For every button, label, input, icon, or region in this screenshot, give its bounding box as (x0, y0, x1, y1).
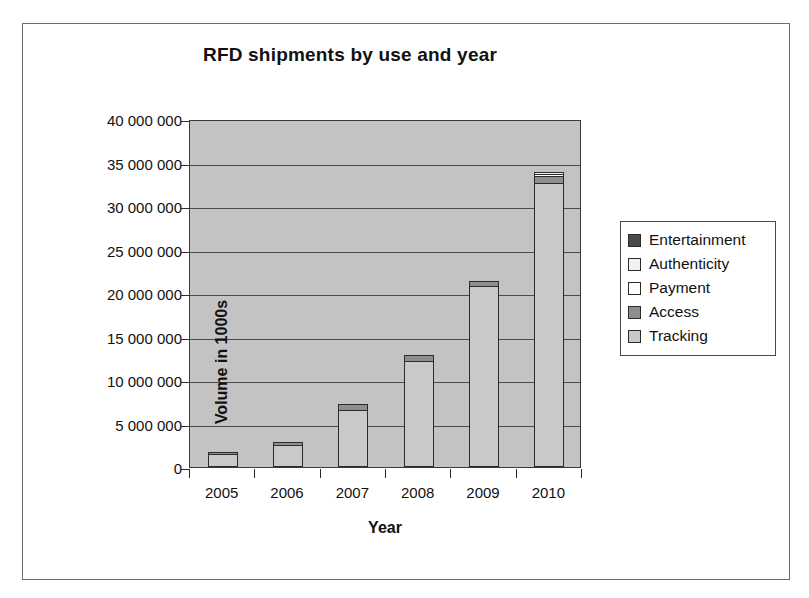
plot-area: Volume in 1000s (189, 120, 581, 468)
legend-swatch-icon (628, 234, 641, 247)
legend-label: Entertainment (649, 232, 746, 248)
legend-item-access[interactable]: Access (628, 300, 768, 324)
x-axis-tick (450, 469, 451, 478)
gridline (190, 295, 580, 296)
x-axis-tick-label-2006: 2006 (270, 484, 303, 501)
bar-segment-tracking[interactable] (273, 445, 303, 467)
y-axis-tick (181, 165, 189, 166)
plot-inner (190, 121, 580, 467)
bar-segment-access[interactable] (534, 176, 564, 184)
legend-swatch-icon (628, 306, 641, 319)
gridline (190, 165, 580, 166)
legend-label: Payment (649, 280, 710, 296)
legend-swatch-icon (628, 330, 641, 343)
y-axis-tick (181, 295, 189, 296)
legend-label: Authenticity (649, 256, 729, 272)
y-axis-tick-label: 15 000 000 (107, 329, 182, 346)
y-axis-tick-label: 35 000 000 (107, 155, 182, 172)
x-axis-tick-label-2008: 2008 (401, 484, 434, 501)
y-axis-title: Volume in 1000s (213, 267, 231, 457)
bar-2007[interactable] (338, 404, 368, 467)
y-axis-tick (181, 208, 189, 209)
y-axis-tick (181, 469, 189, 470)
x-axis-tick-label-2007: 2007 (336, 484, 369, 501)
legend-item-authenticity[interactable]: Authenticity (628, 252, 768, 276)
x-axis-tick (254, 469, 255, 478)
y-axis-tick-label: 20 000 000 (107, 286, 182, 303)
x-axis-tick (581, 469, 582, 478)
y-axis-tick-label: 10 000 000 (107, 373, 182, 390)
x-axis-tick (385, 469, 386, 478)
bar-segment-tracking[interactable] (404, 361, 434, 467)
x-axis-tick (320, 469, 321, 478)
bar-2010[interactable] (534, 172, 564, 467)
bar-2009[interactable] (469, 281, 499, 467)
x-axis-tick-labels: 200520062007200820092010 (189, 484, 581, 508)
x-axis-tick-label-2010: 2010 (532, 484, 565, 501)
y-axis-tick (181, 121, 189, 122)
x-axis-title: Year (189, 519, 581, 537)
x-axis-tick (189, 469, 190, 478)
y-axis-tick-labels: 05 000 00010 000 00015 000 00020 000 000… (60, 120, 182, 468)
gridline (190, 382, 580, 383)
chart-title: RFD shipments by use and year (120, 44, 580, 66)
gridline (190, 426, 580, 427)
legend-label: Access (649, 304, 699, 320)
x-axis-ticks (189, 469, 581, 479)
x-axis-tick-label-2009: 2009 (466, 484, 499, 501)
chart-page: RFD shipments by use and year 05 000 000… (0, 0, 809, 598)
bar-2006[interactable] (273, 442, 303, 467)
y-axis-tick (181, 252, 189, 253)
y-axis-tick (181, 426, 189, 427)
bar-2008[interactable] (404, 355, 434, 467)
y-axis-tick-label: 25 000 000 (107, 242, 182, 259)
gridline (190, 339, 580, 340)
y-axis-tick-label: 40 000 000 (107, 112, 182, 129)
legend-item-tracking[interactable]: Tracking (628, 324, 768, 348)
y-axis-tick (181, 382, 189, 383)
bar-segment-tracking[interactable] (469, 286, 499, 467)
gridline (190, 208, 580, 209)
bar-segment-tracking[interactable] (534, 183, 564, 467)
y-axis-tick (181, 339, 189, 340)
x-axis-tick (516, 469, 517, 478)
bar-segment-tracking[interactable] (338, 410, 368, 467)
legend-swatch-icon (628, 282, 641, 295)
x-axis-tick-label-2005: 2005 (205, 484, 238, 501)
gridline (190, 252, 580, 253)
legend-label: Tracking (649, 328, 708, 344)
chart-legend: EntertainmentAuthenticityPaymentAccessTr… (620, 221, 776, 356)
legend-item-payment[interactable]: Payment (628, 276, 768, 300)
legend-swatch-icon (628, 258, 641, 271)
legend-item-entertainment[interactable]: Entertainment (628, 228, 768, 252)
y-axis-tick-label: 5 000 000 (115, 416, 182, 433)
y-axis-tick-label: 0 (174, 460, 182, 477)
y-axis-tick-label: 30 000 000 (107, 199, 182, 216)
